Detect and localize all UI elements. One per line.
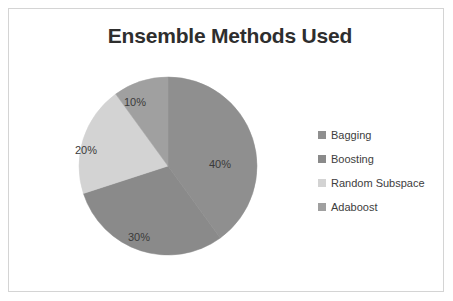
chart-frame: Ensemble Methods Used 40% 30% 20% 10% Ba… (0, 0, 453, 301)
legend-item-adaboost[interactable]: Adaboost (318, 196, 448, 218)
pie-slice-label-bagging: 40% (209, 158, 231, 170)
legend-item-random-subspace[interactable]: Random Subspace (318, 172, 448, 194)
legend-swatch-icon (318, 179, 326, 187)
legend-swatch-icon (318, 155, 326, 163)
chart-title: Ensemble Methods Used (30, 24, 430, 48)
chart-legend: Bagging Boosting Random Subspace Adaboos… (318, 124, 448, 220)
legend-item-label: Random Subspace (331, 178, 425, 189)
legend-swatch-icon (318, 131, 326, 139)
pie-slice-label-boosting: 30% (128, 231, 150, 243)
legend-item-label: Boosting (331, 154, 374, 165)
pie-slice-label-random-subspace: 20% (75, 144, 97, 156)
legend-item-bagging[interactable]: Bagging (318, 124, 448, 146)
legend-item-boosting[interactable]: Boosting (318, 148, 448, 170)
legend-swatch-icon (318, 203, 326, 211)
legend-item-label: Bagging (331, 130, 371, 141)
legend-item-label: Adaboost (331, 202, 377, 213)
pie-slice-label-adaboost: 10% (124, 96, 146, 108)
pie-plot-area: 40% 30% 20% 10% (78, 76, 258, 256)
